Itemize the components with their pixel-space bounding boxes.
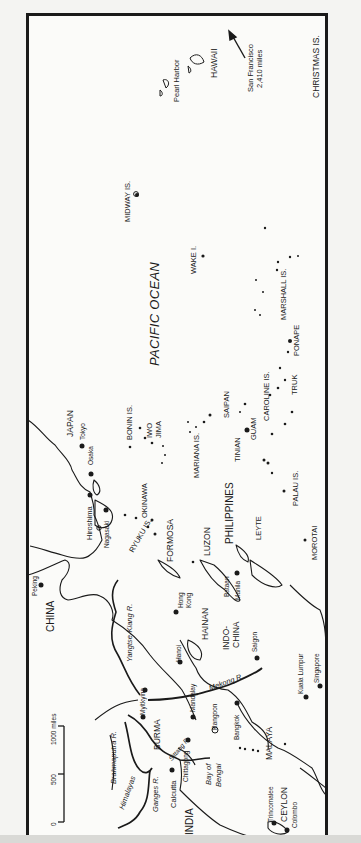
label-hiroshima: Hiroshima — [86, 506, 94, 540]
label-ceylon: CEYLON — [280, 787, 289, 822]
label-japan: JAPAN — [66, 410, 75, 437]
label-sf-line2: 2,410 miles — [256, 50, 264, 88]
label-leyte: LEYTE — [255, 516, 263, 540]
label-kong: Kong — [186, 593, 193, 608]
label-kuala-lumpur: Kuala Lumpur — [298, 654, 305, 694]
label-bonin-is: BONIN IS. — [126, 405, 134, 440]
label-philippines: PHILIPPINES — [225, 482, 235, 544]
label-sf-line1: San Francisco — [247, 44, 255, 92]
label-indochina-china: CHINA — [232, 622, 241, 648]
label-bangkok: Bangkok — [234, 715, 241, 740]
label-formosa: FORMOSA — [166, 519, 175, 562]
label-bengal: Bengal — [215, 764, 223, 787]
label-china: CHINA — [46, 601, 56, 632]
label-iwo: IWO — [146, 423, 154, 438]
label-truk: TRUK — [291, 375, 299, 395]
formosa-island — [158, 560, 180, 578]
label-ponape: PONAPE — [293, 325, 301, 356]
label-brahmaputra-river: Brahmaputra R. — [110, 731, 118, 784]
label-bataan: Bataan — [224, 576, 231, 597]
hawaii-big-island — [190, 55, 204, 64]
label-christmas-is: CHRISTMAS IS. — [312, 35, 321, 98]
malay-coast — [238, 705, 326, 795]
scale-label-0: 0 — [51, 822, 58, 826]
city-markers — [39, 444, 323, 833]
brahmaputra-river — [125, 722, 152, 773]
label-ganges-river: Ganges R. — [152, 776, 160, 812]
label-hawaii: HAWAII — [210, 48, 219, 78]
label-tinian: TINIAN — [234, 437, 242, 462]
label-saigon: Saigon — [252, 632, 259, 652]
label-okinawa: OKINAWA — [141, 483, 149, 518]
label-nagasaki: Nagasaki — [104, 521, 111, 548]
oahu-island — [163, 80, 169, 88]
label-jima: JIMA — [155, 421, 163, 438]
label-malaya: MALAYA — [265, 727, 274, 760]
open-markers — [97, 192, 139, 531]
label-pearl-harbor: Pearl Harbor — [173, 59, 181, 102]
label-manila: Manila — [235, 581, 242, 600]
scale-bar — [58, 726, 64, 822]
mindanao-island — [250, 560, 282, 587]
scale-label-1000-miles: 1000 miles — [51, 714, 58, 745]
kauai-island — [160, 90, 162, 96]
ceylon-island — [268, 822, 288, 834]
sumatra-coast — [300, 768, 326, 788]
maui-island — [188, 66, 191, 73]
visayas — [236, 545, 248, 562]
label-singapore: Singapore — [314, 653, 321, 683]
label-calcutta: Calcutta — [170, 780, 178, 808]
label-india: INDIA — [185, 808, 195, 835]
label-palau-is: PALAU IS. — [292, 471, 300, 506]
label-burma: BURMA — [153, 719, 162, 750]
page-edge — [0, 835, 361, 843]
label-myitkyina: Myitkyina — [140, 688, 147, 715]
label-midway-is: MIDWAY IS. — [124, 181, 132, 222]
mekong-river — [148, 668, 262, 700]
label-saipan: SAIPAN — [223, 391, 231, 418]
shikoku-coast — [93, 480, 100, 495]
label-rangoon: Rangoon — [212, 704, 219, 730]
label-peking: Peking — [32, 576, 39, 596]
label-bay-of: Bay of — [205, 764, 213, 785]
label-yangtse-river: Yangtse-Kiang R. — [126, 604, 134, 662]
label-mariana-is: MARIANA IS. — [193, 433, 201, 478]
label-hong: Hong — [178, 592, 185, 608]
label-tokyo: Tokyo — [80, 423, 87, 440]
label-osaka: Osaka — [88, 446, 95, 465]
label-mandalay: Mandalay — [190, 684, 197, 712]
label-indo: INDO- — [222, 626, 231, 650]
label-hainan: HAINAN — [201, 608, 210, 640]
label-guam: GUAM — [250, 418, 258, 441]
label-colombo: Colombo — [292, 802, 299, 828]
label-caroline-is: CAROLINE IS. — [263, 371, 271, 421]
label-luzon: LUZON — [203, 527, 212, 556]
label-hanoi: Hanoi — [176, 645, 183, 662]
scale-label-500: 500 — [51, 774, 58, 785]
arrow-to-sf — [229, 31, 245, 58]
label-wake-i: WAKE I. — [190, 246, 198, 274]
label-pacific-ocean: PACIFIC OCEAN — [148, 262, 161, 366]
label-morotai: MOROTAI — [311, 526, 319, 560]
label-marshall-is: MARSHALL IS. — [280, 269, 288, 320]
label-trincomalee: Trincomalee — [268, 786, 275, 822]
borneo-coast — [290, 585, 326, 660]
label-chittagong: Chittagong — [183, 751, 190, 782]
